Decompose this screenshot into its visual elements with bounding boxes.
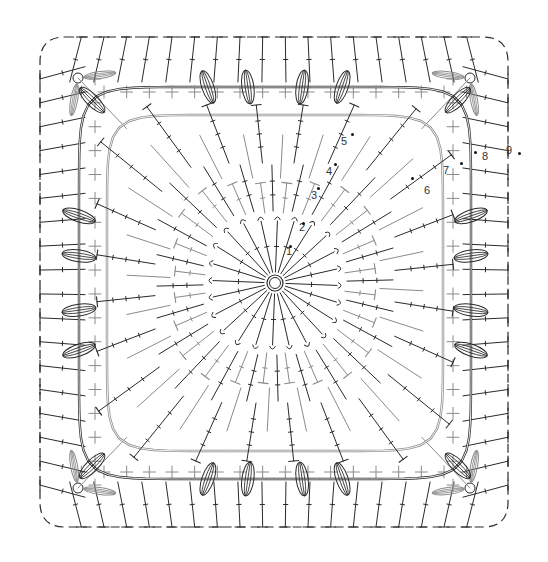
round-start-dot-icon <box>289 245 292 248</box>
round-label-4: 4 <box>326 166 332 177</box>
round-label-6: 6 <box>424 185 430 196</box>
round-7-chain-frame <box>61 69 489 497</box>
round-label-9: 9 <box>506 145 512 156</box>
round-start-dot-icon <box>518 152 521 155</box>
outer-border-round <box>40 37 508 527</box>
inner-rounds-spokes <box>95 103 455 463</box>
round-start-dot-icon <box>460 162 463 165</box>
magic-ring-icon <box>267 275 283 291</box>
round-start-dot-icon <box>334 163 337 166</box>
round-start-dot-icon <box>411 177 414 180</box>
round-label-7: 7 <box>443 165 449 176</box>
round-label-8: 8 <box>482 151 488 162</box>
round-start-dot-icon <box>474 151 477 154</box>
round-label-5: 5 <box>341 136 347 147</box>
crochet-chart <box>0 0 548 562</box>
round-label-3: 3 <box>311 190 317 201</box>
round-start-dot-icon <box>302 222 305 225</box>
round-6-chain-frame <box>107 115 443 451</box>
round-start-dot-icon <box>351 133 354 136</box>
round-start-dot-icon <box>317 187 320 190</box>
